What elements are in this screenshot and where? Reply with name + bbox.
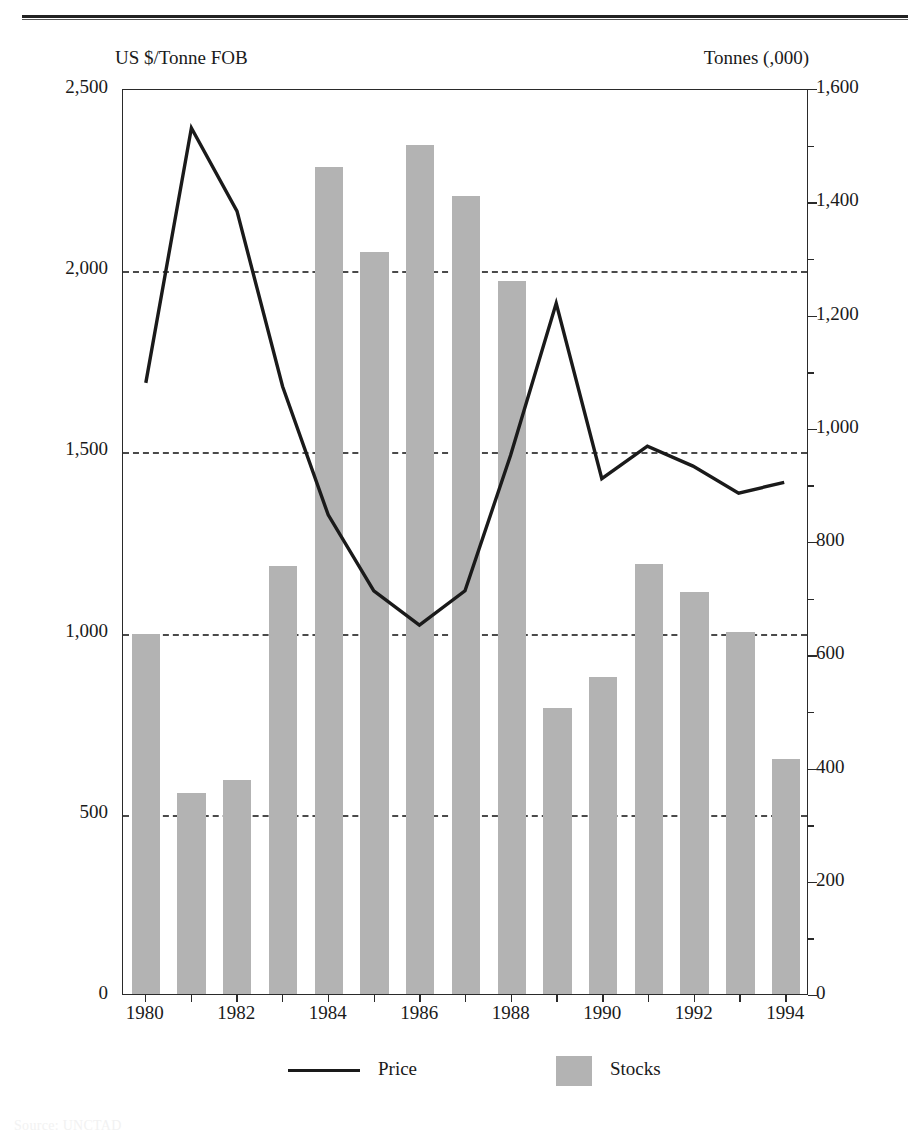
x-tick-label-1990: 1990	[567, 1002, 637, 1024]
legend-price-line-swatch	[288, 1069, 360, 1072]
left-tick-label-1000: 1,000	[24, 620, 108, 642]
right-tick-mark-minor-300	[808, 825, 814, 826]
x-tick-mark-1994	[785, 995, 786, 1002]
chart-figure: US $/Tonne FOB Tonnes (,000) 05001,0001,…	[0, 0, 924, 1144]
x-tick-mark-1992	[694, 995, 695, 1002]
right-tick-mark-0	[808, 995, 817, 996]
x-tick-label-1988: 1988	[476, 1002, 546, 1024]
left-tick-label-0: 0	[24, 982, 108, 1004]
right-tick-mark-minor-1300	[808, 259, 814, 260]
right-tick-label-200: 200	[816, 869, 906, 891]
x-tick-label-1984: 1984	[293, 1002, 363, 1024]
left-tick-label-2500: 2,500	[24, 76, 108, 98]
legend-price-label: Price	[378, 1058, 417, 1080]
x-tick-label-1986: 1986	[384, 1002, 454, 1024]
legend-stocks-bar-swatch	[556, 1056, 592, 1086]
right-tick-label-1400: 1,400	[816, 189, 906, 211]
right-tick-mark-400	[808, 769, 817, 770]
right-tick-label-800: 800	[816, 529, 906, 551]
left-tick-label-2000: 2,000	[24, 257, 108, 279]
x-tick-mark-1981	[191, 995, 192, 1002]
x-tick-mark-1980	[145, 995, 146, 1002]
right-tick-mark-minor-1500	[808, 146, 814, 147]
left-tick-label-500: 500	[24, 801, 108, 823]
left-axis-title: US $/Tonne FOB	[115, 47, 248, 69]
right-tick-label-400: 400	[816, 756, 906, 778]
right-tick-mark-1400	[808, 202, 817, 203]
right-tick-mark-1600	[808, 89, 817, 90]
right-tick-label-1000: 1,000	[816, 416, 906, 438]
source-note: Source: UNCTAD	[14, 1118, 122, 1134]
x-tick-mark-1986	[419, 995, 420, 1002]
x-tick-mark-1987	[465, 995, 466, 1002]
plot-area	[122, 89, 808, 995]
x-tick-mark-1993	[739, 995, 740, 1002]
right-tick-mark-minor-100	[808, 938, 814, 939]
x-tick-label-1982: 1982	[201, 1002, 271, 1024]
x-tick-mark-1984	[328, 995, 329, 1002]
right-tick-mark-minor-1100	[808, 372, 814, 373]
x-tick-mark-1989	[556, 995, 557, 1002]
x-tick-mark-1990	[602, 995, 603, 1002]
right-tick-label-1600: 1,600	[816, 76, 906, 98]
right-tick-label-600: 600	[816, 642, 906, 664]
x-tick-mark-1983	[282, 995, 283, 1002]
chart-legend: Price Stocks	[0, 1058, 924, 1092]
top-divider-rule-thin	[22, 19, 908, 20]
right-tick-mark-1000	[808, 429, 817, 430]
right-tick-mark-1200	[808, 316, 817, 317]
legend-stocks-label: Stocks	[610, 1058, 661, 1080]
top-divider-rule	[22, 15, 908, 18]
x-tick-label-1994: 1994	[750, 1002, 820, 1024]
right-axis-title: Tonnes (,000)	[704, 47, 809, 69]
line-series-price	[123, 90, 807, 994]
x-tick-mark-1988	[511, 995, 512, 1002]
right-tick-mark-minor-900	[808, 485, 814, 486]
left-tick-label-1500: 1,500	[24, 438, 108, 460]
x-tick-mark-1985	[374, 995, 375, 1002]
right-tick-mark-minor-700	[808, 599, 814, 600]
right-tick-mark-600	[808, 655, 817, 656]
right-tick-mark-200	[808, 882, 817, 883]
right-tick-mark-minor-500	[808, 712, 814, 713]
x-tick-mark-1982	[236, 995, 237, 1002]
plot-inner	[123, 90, 807, 994]
x-tick-label-1992: 1992	[659, 1002, 729, 1024]
x-tick-mark-1991	[648, 995, 649, 1002]
right-tick-mark-800	[808, 542, 817, 543]
right-tick-label-1200: 1,200	[816, 303, 906, 325]
x-tick-label-1980: 1980	[110, 1002, 180, 1024]
right-tick-label-0: 0	[816, 982, 906, 1004]
